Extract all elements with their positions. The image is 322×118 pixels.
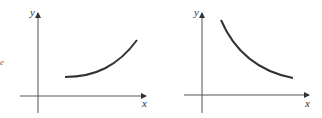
graphs-figure: y x y x — [0, 0, 322, 118]
graph-increasing: y x — [20, 6, 147, 113]
decreasing-curve — [221, 20, 293, 78]
y-axis-label: y — [29, 6, 35, 18]
graph-decreasing: y x — [184, 6, 310, 113]
increasing-curve — [65, 40, 137, 77]
x-axis-label: x — [141, 97, 147, 109]
x-axis-label: x — [304, 97, 310, 109]
y-axis-label: y — [193, 6, 199, 18]
